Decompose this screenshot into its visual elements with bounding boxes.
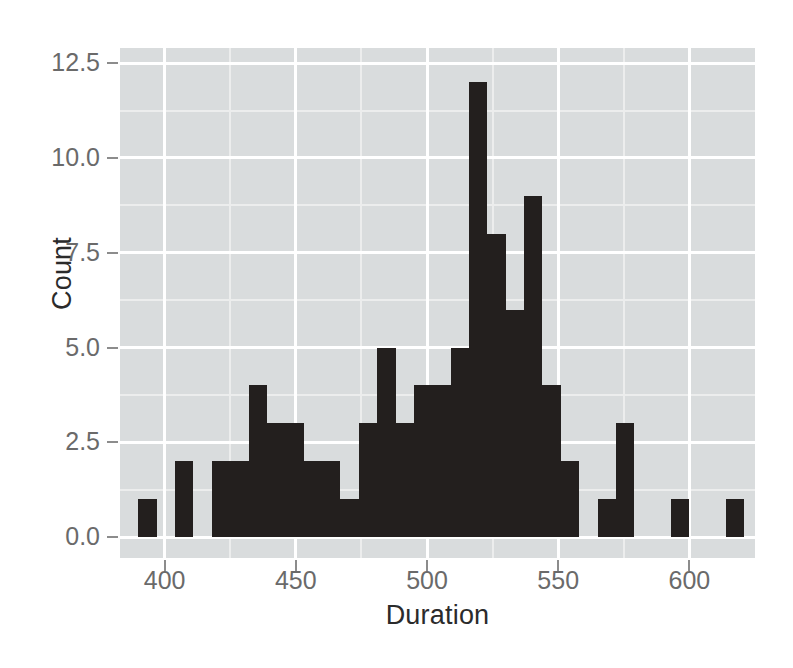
x-tick-mark	[557, 560, 559, 571]
x-axis: 400450500550600	[0, 0, 793, 668]
x-tick-mark	[688, 560, 690, 571]
histogram-figure: Count Duration 0.02.55.07.510.012.5 4004…	[0, 0, 793, 668]
x-tick-mark	[164, 560, 166, 571]
x-tick-label: 450	[256, 568, 336, 593]
x-tick-label: 500	[387, 568, 467, 593]
x-tick-label: 600	[649, 568, 729, 593]
x-tick-mark	[426, 560, 428, 571]
x-tick-label: 400	[125, 568, 205, 593]
x-tick-mark	[295, 560, 297, 571]
x-tick-label: 550	[518, 568, 598, 593]
